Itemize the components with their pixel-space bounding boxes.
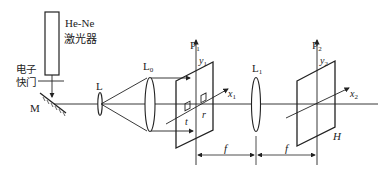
shutter-label-2: 快门 (16, 76, 36, 88)
laser-label-2: 激光器 (64, 32, 97, 46)
svg-text:L0: L0 (143, 60, 154, 74)
aperture-t-label: t (185, 116, 188, 127)
lens-l1-sub: 1 (259, 68, 263, 76)
lens-l: L (96, 80, 103, 116)
p1-sub: 1 (196, 45, 200, 53)
svg-text:y1: y1 (198, 55, 207, 68)
mirror: M (30, 93, 66, 116)
lens-l1: L1 (252, 62, 263, 132)
lens-l0-sub: 0 (150, 66, 154, 74)
laser-label-1: He-Ne (65, 17, 94, 29)
laser: He-Ne 激光器 (45, 12, 97, 75)
lens-l-label: L (96, 80, 103, 92)
optical-setup-diagram: He-Ne 激光器 电子 快门 M L L0 (0, 0, 389, 177)
lens-l0: L0 (143, 60, 155, 132)
svg-text:x2: x2 (349, 88, 358, 101)
focal-length-1: f (224, 142, 229, 154)
svg-text:y2: y2 (319, 55, 328, 68)
hologram-label: H (332, 130, 342, 142)
p2-sub: 2 (318, 45, 322, 53)
svg-text:P2: P2 (312, 39, 322, 53)
focal-length-2: f (285, 142, 290, 154)
aperture-r-label: r (202, 109, 206, 120)
svg-text:L1: L1 (252, 62, 263, 76)
mirror-label: M (30, 102, 40, 114)
svg-text:P1: P1 (190, 39, 200, 53)
shutter-label-1: 电子 (16, 63, 36, 75)
svg-text:x1: x1 (227, 88, 236, 101)
plane-p2: P2 y2 x2 H (286, 39, 358, 165)
